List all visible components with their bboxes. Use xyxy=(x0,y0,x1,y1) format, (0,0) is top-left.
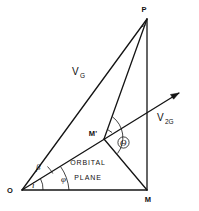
angle-label-theta: Θ xyxy=(120,138,127,148)
line-Mprime-to-P xyxy=(104,19,147,139)
vertex-label-M-prime: M' xyxy=(89,129,97,138)
orbital-plane-label-line1: ORBITAL xyxy=(70,159,106,166)
figure-canvas: P M M' O V G V 2G β i φ Θ ORBITAL PLANE xyxy=(0,0,199,211)
vector-label-v2g-base: V xyxy=(157,112,164,123)
v2g-arrowhead xyxy=(171,93,180,99)
orbital-plane-diagram: P M M' O V G V 2G β i φ Θ ORBITAL PLANE xyxy=(0,0,199,211)
angle-label-phi: φ xyxy=(61,174,66,184)
vertex-label-M: M xyxy=(145,195,151,204)
angle-arc-inclination xyxy=(41,179,44,190)
angle-label-beta: β xyxy=(35,162,41,172)
vector-label-vg: V G xyxy=(72,66,85,79)
vector-label-v2g: V 2G xyxy=(157,112,174,125)
vector-label-vg-base: V xyxy=(72,66,79,77)
right-angle-mark-at-Mprime xyxy=(108,130,113,133)
vector-label-vg-subscript: G xyxy=(80,72,85,79)
orbital-plane-label-line2: PLANE xyxy=(74,174,101,181)
vertex-label-O: O xyxy=(7,186,13,195)
vertex-label-P: P xyxy=(141,5,146,14)
vector-label-v2g-subscript: 2G xyxy=(165,118,174,125)
